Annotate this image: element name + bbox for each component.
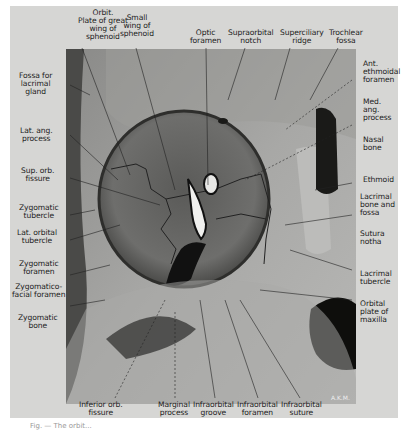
label-orbital-plate-maxilla: Orbital plate of maxilla: [360, 300, 388, 324]
label-supraorbital-notch: Supraorbital notch: [228, 29, 273, 45]
label-zygomaticofacial-foramen: Zygomatico- facial foramen: [12, 283, 65, 299]
label-marginal-process: Marginal process: [158, 401, 190, 417]
leader-lines: [0, 0, 405, 432]
label-infraorbital-suture: Infraorbital suture: [281, 401, 322, 417]
label-sup-orb-fissure: Sup. orb. fissure: [21, 167, 54, 183]
figure-caption: Fig. — The orbit...: [30, 422, 92, 430]
artist-signature: A.K.M.: [331, 394, 350, 401]
label-ethmoid: Ethmoid: [363, 176, 394, 184]
label-lat-ang-process: Lat. ang. process: [20, 127, 53, 143]
label-lat-orbital-tubercle: Lat. orbital tubercle: [17, 229, 57, 245]
label-lacrimal-tubercle: Lacrimal tubercle: [360, 270, 392, 286]
label-zygomatic-foramen: Zygomatic foramen: [19, 260, 59, 276]
label-inferior-orb-fissure: Inferior orb. fissure: [79, 401, 123, 417]
label-zygomatic-bone: Zygomatic bone: [18, 314, 58, 330]
label-infraorbital-foramen: Infraorbital foramen: [237, 401, 278, 417]
label-nasal-bone: Nasal bone: [363, 136, 384, 152]
label-fossa-lacrimal-gland: Fossa for lacrimal gland: [19, 72, 52, 96]
label-ant-ethmoidal-foramen: Ant. ethmoidal foramen: [363, 60, 400, 84]
label-infraorbital-groove: Infraorbital groove: [193, 401, 234, 417]
label-zygomatic-tubercle: Zygomatic tubercle: [19, 204, 59, 220]
label-trochlear-fossa: Trochlear fossa: [329, 29, 363, 45]
label-med-ang-process: Med. ang. process: [363, 98, 391, 122]
label-superciliary-ridge: Superciliary ridge: [280, 29, 324, 45]
label-sutura-notha: Sutura notha: [360, 230, 385, 246]
label-small-wing-sphenoid: Small wing of sphenoid: [120, 14, 154, 38]
label-optic-foramen: Optic foramen: [190, 29, 221, 45]
label-lacrimal-bone-fossa: Lacrimal bone and fossa: [360, 193, 395, 217]
